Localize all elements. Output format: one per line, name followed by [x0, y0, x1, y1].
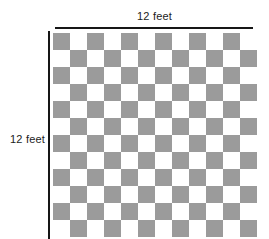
tile [189, 220, 206, 237]
tile [104, 101, 121, 118]
tile [172, 118, 189, 135]
tile [87, 169, 104, 186]
tile [206, 118, 223, 135]
tile [172, 203, 189, 220]
tile [223, 220, 240, 237]
tile [223, 101, 240, 118]
tile [138, 67, 155, 84]
tile [206, 135, 223, 152]
tile [121, 33, 138, 50]
left-dimension-label: 12 feet [10, 133, 45, 146]
tile [189, 186, 206, 203]
tile [206, 101, 223, 118]
tile [223, 169, 240, 186]
tile [104, 84, 121, 101]
tile [206, 50, 223, 67]
tile [138, 152, 155, 169]
tile [172, 101, 189, 118]
tile [155, 84, 172, 101]
tile [138, 101, 155, 118]
tile [240, 33, 257, 50]
tile [189, 101, 206, 118]
tile [240, 118, 257, 135]
diagram-canvas: 12 feet 12 feet [0, 0, 269, 239]
tile [70, 220, 87, 237]
tile [104, 186, 121, 203]
tile [121, 118, 138, 135]
tile [104, 152, 121, 169]
tile [189, 118, 206, 135]
tile [87, 186, 104, 203]
tile [206, 186, 223, 203]
tile [172, 67, 189, 84]
tile [155, 220, 172, 237]
tile [189, 203, 206, 220]
tile [87, 152, 104, 169]
tile [53, 101, 70, 118]
tile [155, 135, 172, 152]
tile [53, 203, 70, 220]
tile [121, 152, 138, 169]
tile [70, 50, 87, 67]
tile [121, 84, 138, 101]
tile [87, 33, 104, 50]
tile [223, 152, 240, 169]
tile [53, 135, 70, 152]
tile [223, 135, 240, 152]
tile [172, 84, 189, 101]
tile [104, 50, 121, 67]
tile [240, 169, 257, 186]
tile [87, 135, 104, 152]
tile [223, 203, 240, 220]
checkerboard-grid [53, 33, 257, 239]
tile [70, 84, 87, 101]
tile [138, 220, 155, 237]
tile [70, 67, 87, 84]
tile [138, 186, 155, 203]
tile [240, 50, 257, 67]
tile [87, 50, 104, 67]
tile [155, 50, 172, 67]
tile [189, 152, 206, 169]
tile [189, 84, 206, 101]
tile [240, 220, 257, 237]
tile [138, 169, 155, 186]
tile [189, 135, 206, 152]
tile [206, 84, 223, 101]
tile [172, 135, 189, 152]
tile [121, 186, 138, 203]
tile [53, 67, 70, 84]
tile [223, 50, 240, 67]
tile [53, 50, 70, 67]
tile [189, 33, 206, 50]
tile [121, 101, 138, 118]
tile [87, 101, 104, 118]
tile [189, 67, 206, 84]
tile [121, 50, 138, 67]
tile [155, 152, 172, 169]
tile [223, 67, 240, 84]
tile [70, 186, 87, 203]
tile [53, 33, 70, 50]
tile [155, 169, 172, 186]
tile [70, 203, 87, 220]
tile [87, 84, 104, 101]
tile [87, 203, 104, 220]
tile [155, 186, 172, 203]
tile [172, 50, 189, 67]
tile [87, 118, 104, 135]
top-dimension-line [55, 27, 253, 29]
tile [121, 203, 138, 220]
tile [87, 220, 104, 237]
tile [172, 186, 189, 203]
tile [223, 186, 240, 203]
tile [223, 118, 240, 135]
tile [155, 101, 172, 118]
tile [104, 118, 121, 135]
tile [240, 203, 257, 220]
tile [138, 118, 155, 135]
tile [70, 135, 87, 152]
tile [70, 101, 87, 118]
tile [138, 50, 155, 67]
tile [155, 67, 172, 84]
